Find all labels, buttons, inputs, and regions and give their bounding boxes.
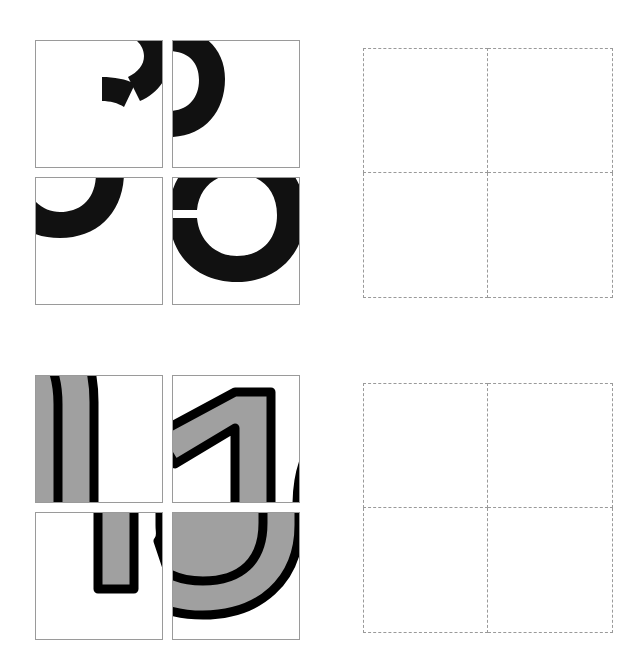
glyph-fragment-left-lobe-of-3 [36,178,162,304]
drop-grid-top[interactable] [363,48,613,298]
source-tile-6[interactable] [35,512,163,640]
glyph-fragment-top-of-1 [173,376,299,502]
source-tile-2[interactable] [35,177,163,305]
drop-cell-5[interactable] [488,383,613,508]
source-tile-3[interactable] [172,177,300,305]
glyph-fragment-top-right-of-3 [36,41,162,167]
drop-cell-2[interactable] [363,173,488,298]
drop-cell-6[interactable] [363,508,488,633]
drop-cell-7[interactable] [488,508,613,633]
drop-cell-4[interactable] [363,383,488,508]
source-tile-0[interactable] [35,40,163,168]
source-tile-7[interactable] [172,512,300,640]
drop-grid-bottom[interactable] [363,383,613,633]
glyph-fragment-lower-right-bowl-of-3 [173,178,299,304]
tile-group-bottom [35,375,300,640]
drop-cell-1[interactable] [488,48,613,173]
source-tile-4[interactable] [35,375,163,503]
tile-group-top [35,40,300,305]
glyph-fragment-upper-left-bowl-of-3 [173,41,299,167]
glyph-fragment-top-arch-of-0 [36,376,162,502]
source-tile-1[interactable] [172,40,300,168]
source-tile-5[interactable] [172,375,300,503]
drop-cell-0[interactable] [363,48,488,173]
glyph-fragment-bottom-stem-of-1 [36,513,162,639]
puzzle-stage [0,0,639,668]
glyph-fragment-bottom-bowl-of-0 [173,513,299,639]
drop-cell-3[interactable] [488,173,613,298]
